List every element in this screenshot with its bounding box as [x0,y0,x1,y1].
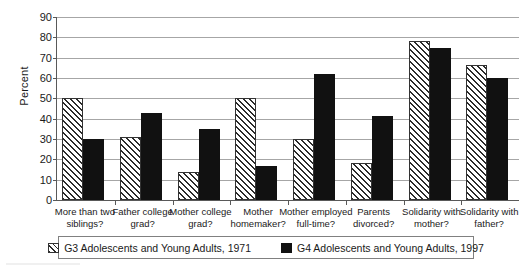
bar-group [404,17,462,200]
bar-g3 [293,139,314,200]
bar-g4 [199,129,220,200]
legend-label-g3: G3 Adolescents and Young Adults, 1971 [64,242,251,254]
bar-g3 [351,163,372,200]
legend-item-g4: G4 Adolescents and Young Adults, 1997 [281,242,484,254]
category-label-line: Solidarity with [452,206,526,218]
bar-g3 [178,172,199,200]
bar-g3 [62,98,83,200]
bar-g4 [372,116,393,200]
bar-g3 [120,137,141,200]
y-tick-label: 50 [40,93,52,104]
bar-g4 [83,139,104,200]
solid-swatch-icon [281,243,292,253]
x-tick-mark [173,200,174,205]
bar-group [230,17,288,200]
x-tick-mark [346,200,347,205]
hatch-swatch-icon [48,243,59,253]
bar-g4 [487,78,508,200]
y-tick-mark [53,200,57,201]
category-label: Solidarity withfather? [452,206,526,230]
chart-legend: G3 Adolescents and Young Adults, 1971 G4… [58,236,474,259]
bar-chart: Percent 0102030405060708090 More than tw… [0,0,531,270]
bar-group [461,17,519,200]
y-tick-label: 90 [40,12,52,23]
x-tick-mark [404,200,405,205]
x-tick-mark [230,200,231,205]
bar-g4 [430,48,451,201]
bar-group [346,17,404,200]
y-tick-label: 30 [40,134,52,145]
bar-g4 [141,113,162,200]
bar-g4 [314,74,335,200]
x-tick-mark [288,200,289,205]
category-label-line: father? [452,218,526,230]
plot-area: 0102030405060708090 [56,17,519,201]
x-tick-mark [461,200,462,205]
y-tick-label: 70 [40,52,52,63]
legend-label-g4: G4 Adolescents and Young Adults, 1997 [297,242,484,254]
y-tick-label: 60 [40,73,52,84]
x-tick-mark [115,200,116,205]
bar-group [115,17,173,200]
bar-g3 [466,65,487,200]
y-tick-label: 40 [40,113,52,124]
y-tick-label: 10 [40,174,52,185]
bar-g3 [235,98,256,200]
bar-group [173,17,231,200]
scan-artifact [6,263,80,265]
bar-g4 [256,166,277,200]
y-tick-label: 0 [46,195,52,206]
y-tick-label: 20 [40,154,52,165]
legend-item-g3: G3 Adolescents and Young Adults, 1971 [48,242,251,254]
bar-group [57,17,115,200]
bar-g3 [409,41,430,200]
y-axis-title: Percent [18,26,30,146]
y-tick-label: 80 [40,32,52,43]
bar-group [288,17,346,200]
